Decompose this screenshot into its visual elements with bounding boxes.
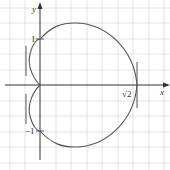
x-axis-label: x	[159, 87, 164, 97]
axes	[5, 4, 168, 160]
x-tick-sqrt2: √2	[122, 89, 131, 99]
y-axis-arrow-icon	[38, 2, 43, 9]
diagram: y x √2 1 −1	[0, 0, 170, 170]
y-tick-minus-1: −1	[25, 126, 35, 136]
x-axis-arrow-icon	[163, 83, 170, 88]
plot: y x √2 1 −1	[0, 0, 170, 170]
y-axis-label: y	[31, 4, 36, 14]
y-tick-1: 1	[31, 34, 36, 44]
